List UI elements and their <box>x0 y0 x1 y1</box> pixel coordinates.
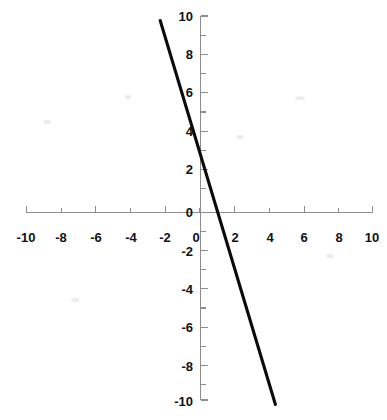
x-axis-group: -10 -8 -6 -4 -2 0 2 4 6 8 10 <box>17 206 380 246</box>
x-tick-label: -6 <box>90 230 102 245</box>
x-tick-label: -2 <box>159 230 171 245</box>
y-axis-tick-labels: 10 8 6 4 2 0 -2 -4 -6 -8 -10 <box>174 9 194 409</box>
y-tick-label: -2 <box>181 244 193 259</box>
y-tick-label: -8 <box>181 359 193 374</box>
x-tick-label: -10 <box>17 230 36 245</box>
x-tick-label: 6 <box>300 230 307 245</box>
x-tick-label: -4 <box>125 230 137 245</box>
x-tick-label: 10 <box>365 230 379 245</box>
y-tick-label: 6 <box>186 85 193 100</box>
x-tick-label: -8 <box>55 230 67 245</box>
y-tick-label: 10 <box>179 9 193 24</box>
y-axis-group: 10 8 6 4 2 0 -2 -4 -6 -8 -10 <box>174 9 207 409</box>
y-tick-label: 8 <box>186 47 193 62</box>
x-tick-label-origin: 0 <box>192 230 199 245</box>
y-tick-label: 2 <box>186 162 193 177</box>
coordinate-plane-svg: -10 -8 -6 -4 -2 0 2 4 6 8 10 <box>0 0 387 420</box>
y-tick-label-origin: 0 <box>186 205 193 220</box>
x-axis-ticks <box>27 206 373 213</box>
graph-figure: -10 -8 -6 -4 -2 0 2 4 6 8 10 <box>0 0 387 420</box>
x-tick-label: 4 <box>266 230 274 245</box>
y-tick-label: -6 <box>181 320 193 335</box>
x-tick-label: 8 <box>335 230 342 245</box>
y-tick-label: -10 <box>174 394 193 409</box>
y-tick-label: -4 <box>181 282 193 297</box>
x-tick-label: 2 <box>231 230 238 245</box>
x-axis-tick-labels: -10 -8 -6 -4 -2 0 2 4 6 8 10 <box>17 230 380 245</box>
y-axis-ticks <box>201 16 208 400</box>
